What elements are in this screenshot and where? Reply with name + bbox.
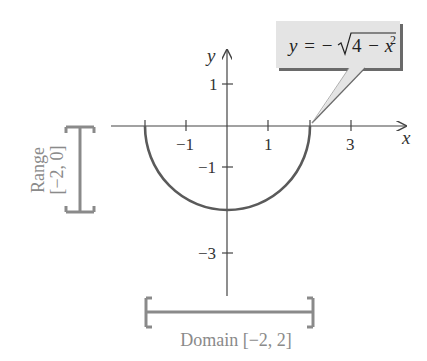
range-bracket: [66, 127, 94, 212]
y-tick-label-1: 1: [209, 75, 218, 94]
radicand-text: 4 − x: [352, 35, 394, 56]
function-graph: −1 1 3 1 −1 −3 x y y = − 4 − x 2: [0, 0, 427, 361]
x-tick-label-1: 1: [264, 135, 273, 154]
domain-bracket: [146, 298, 313, 327]
y-axis-label: y: [205, 45, 216, 66]
x-tick-label-neg1: −1: [176, 135, 194, 154]
y-tick-label-neg1: −1: [198, 158, 216, 177]
equation-callout: y = − 4 − x 2: [276, 21, 403, 123]
x-tick-label-3: 3: [346, 135, 355, 154]
x-axis-label: x: [401, 127, 411, 148]
exponent-text: 2: [390, 33, 396, 47]
y-tick-label-neg3: −3: [198, 244, 216, 263]
range-interval: [−2, 0]: [47, 145, 67, 194]
equation-text: y = −: [287, 35, 332, 56]
range-title: Range: [28, 147, 48, 193]
domain-label: Domain [−2, 2]: [180, 330, 292, 350]
